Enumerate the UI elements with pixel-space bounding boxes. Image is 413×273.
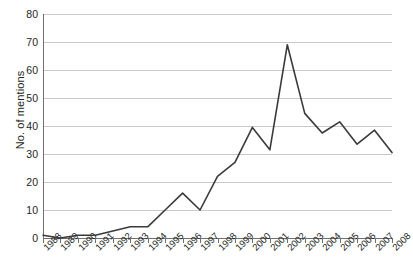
y-axis-tick-label: 80 [12, 8, 38, 20]
gridline [43, 98, 392, 99]
plot-area [43, 14, 392, 238]
gridline [43, 14, 392, 15]
y-axis-tick-label: 40 [12, 120, 38, 132]
gridline [43, 42, 392, 43]
gridline [43, 126, 392, 127]
gridline [43, 154, 392, 155]
y-axis-tick-label: 0 [12, 232, 38, 244]
y-axis-tick-label: 10 [12, 204, 38, 216]
y-axis-tick-label: 20 [12, 176, 38, 188]
y-axis-tick-group: 01020304050607080 [8, 14, 38, 238]
y-axis-tick-label: 50 [12, 92, 38, 104]
y-axis-tick-label: 30 [12, 148, 38, 160]
y-axis-line [43, 14, 44, 238]
gridline [43, 210, 392, 211]
gridline [43, 182, 392, 183]
y-axis-tick-label: 60 [12, 64, 38, 76]
gridline [43, 70, 392, 71]
y-axis-tick-label: 70 [12, 36, 38, 48]
x-axis-tick-label: 2008 [390, 230, 413, 253]
